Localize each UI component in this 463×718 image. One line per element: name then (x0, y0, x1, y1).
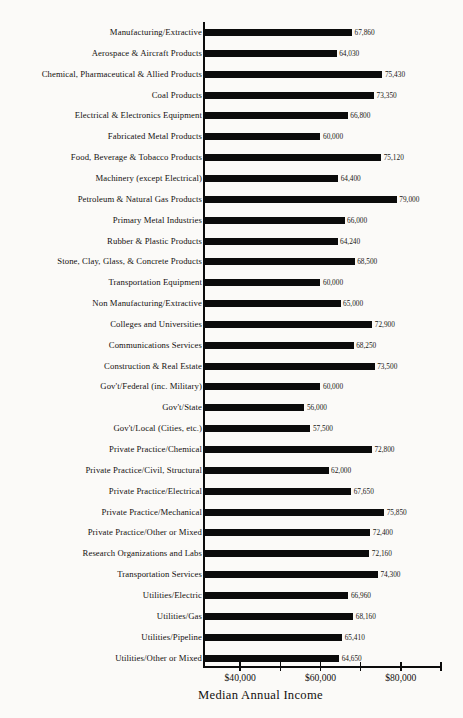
bar-value-label: 65,410 (342, 631, 365, 644)
bar-row: Food, Beverage & Tobacco Products75,120 (0, 147, 463, 168)
category-label: Primary Metal Industries (113, 210, 202, 231)
bar-value-label: 67,860 (352, 26, 375, 39)
axis-tick (400, 662, 401, 671)
bar (204, 217, 345, 224)
axis-tick (280, 662, 281, 671)
bar-row: Gov't/Federal (inc. Military)60,000 (0, 376, 463, 397)
axis-tick-label: $80,000 (385, 672, 416, 683)
bar (204, 342, 354, 349)
bar-row: Research Organizations and Labs72,160 (0, 543, 463, 564)
bar (204, 258, 355, 265)
x-axis-title-text: Median Annual Income (198, 688, 323, 702)
category-label: Gov't/Local (Cities, etc.) (113, 418, 202, 439)
bar-row: Utilities/Pipeline65,410 (0, 627, 463, 648)
bar (204, 550, 369, 557)
bar-row: Primary Metal Industries66,000 (0, 210, 463, 231)
bar-value-label: 67,650 (351, 485, 374, 498)
bar-value-label: 66,800 (348, 109, 371, 122)
category-label: Transportation Services (117, 564, 202, 585)
y-axis-line (203, 22, 205, 667)
bar-value-label: 73,500 (375, 360, 398, 373)
bar (204, 592, 348, 599)
bar-value-label: 72,160 (369, 547, 392, 560)
bar-row: Private Practice/Other or Mixed72,400 (0, 522, 463, 543)
bar-row: Private Practice/Chemical72,800 (0, 439, 463, 460)
bar-value-label: 60,000 (320, 130, 343, 143)
category-label: Private Practice/Mechanical (102, 502, 202, 523)
axis-tick (239, 662, 240, 671)
bar-value-label: 72,400 (370, 526, 393, 539)
category-label: Machinery (except Electrical) (95, 168, 202, 189)
category-label: Rubber & Plastic Products (107, 231, 202, 252)
bar-row: Private Practice/Electrical67,650 (0, 481, 463, 502)
bar (204, 279, 320, 286)
bar-value-label: 72,900 (372, 318, 395, 331)
bar-value-label: 56,000 (304, 401, 327, 414)
bar-row: Stone, Clay, Glass, & Concrete Products6… (0, 251, 463, 272)
bar-value-label: 65,000 (341, 297, 364, 310)
category-label: Aerospace & Aircraft Products (92, 43, 202, 64)
bar-row: Fabricated Metal Products60,000 (0, 126, 463, 147)
axis-tick (360, 662, 361, 671)
bar-value-label: 79,000 (397, 193, 420, 206)
bar (204, 363, 375, 370)
bar-row: Colleges and Universities72,900 (0, 314, 463, 335)
bar (204, 383, 320, 390)
bar-row: Manufacturing/Extractive67,860 (0, 22, 463, 43)
category-label: Private Practice/Other or Mixed (88, 522, 202, 543)
category-label: Chemical, Pharmaceutical & Allied Produc… (42, 64, 202, 85)
category-label: Gov't/State (162, 397, 202, 418)
bar-row: Private Practice/Civil, Structural62,000 (0, 460, 463, 481)
bar-value-label: 66,960 (348, 589, 371, 602)
bar-value-label: 64,240 (338, 235, 361, 248)
bar-value-label: 74,300 (378, 568, 401, 581)
bar-value-label: 68,250 (354, 339, 377, 352)
category-label: Transportation Equipment (108, 272, 202, 293)
category-label: Research Organizations and Labs (83, 543, 202, 564)
median-annual-income-bar-chart: Manufacturing/Extractive67,860Aerospace … (0, 0, 463, 718)
bar-row: Machinery (except Electrical)64,400 (0, 168, 463, 189)
bar (204, 571, 378, 578)
bar-row: Electrical & Electronics Equipment66,800 (0, 105, 463, 126)
category-label: Fabricated Metal Products (108, 126, 202, 147)
bar (204, 446, 372, 453)
axis-tick-label: $40,000 (225, 672, 256, 683)
bar-value-label: 66,000 (345, 214, 368, 227)
category-label: Utilities/Pipeline (141, 627, 202, 648)
bar (204, 50, 337, 57)
category-label: Non Manufacturing/Extractive (92, 293, 202, 314)
category-label: Construction & Real Estate (104, 356, 202, 377)
bar-value-label: 75,430 (382, 68, 405, 81)
bar-row: Aerospace & Aircraft Products64,030 (0, 43, 463, 64)
bar-value-label: 64,400 (338, 172, 361, 185)
bar (204, 71, 382, 78)
bar-row: Utilities/Electric66,960 (0, 585, 463, 606)
bar (204, 238, 338, 245)
bar-row: Transportation Equipment60,000 (0, 272, 463, 293)
category-label: Utilities/Gas (157, 606, 202, 627)
axis-tick (440, 662, 441, 671)
category-label: Communications Services (109, 335, 202, 356)
bar-row: Communications Services68,250 (0, 335, 463, 356)
axis-tick-label: $60,000 (305, 672, 336, 683)
bar-row: Gov't/State56,000 (0, 397, 463, 418)
bar-row: Rubber & Plastic Products64,240 (0, 231, 463, 252)
category-label: Electrical & Electronics Equipment (75, 105, 202, 126)
bar-value-label: 64,030 (337, 47, 360, 60)
category-label: Private Practice/Electrical (109, 481, 202, 502)
category-label: Food, Beverage & Tobacco Products (71, 147, 202, 168)
category-label: Coal Products (152, 85, 202, 106)
category-label: Private Practice/Civil, Structural (85, 460, 202, 481)
bar-row: Petroleum & Natural Gas Products79,000 (0, 189, 463, 210)
category-label: Stone, Clay, Glass, & Concrete Products (57, 251, 202, 272)
bar-row: Utilities/Gas68,160 (0, 606, 463, 627)
bar (204, 175, 338, 182)
bar-value-label: 57,500 (310, 422, 333, 435)
bar-value-label: 75,120 (381, 151, 404, 164)
category-label: Utilities/Other or Mixed (115, 648, 202, 669)
bar (204, 467, 329, 474)
bar (204, 112, 348, 119)
bar-row: Non Manufacturing/Extractive65,000 (0, 293, 463, 314)
bar-value-label: 68,500 (355, 255, 378, 268)
bar-row: Gov't/Local (Cities, etc.)57,500 (0, 418, 463, 439)
